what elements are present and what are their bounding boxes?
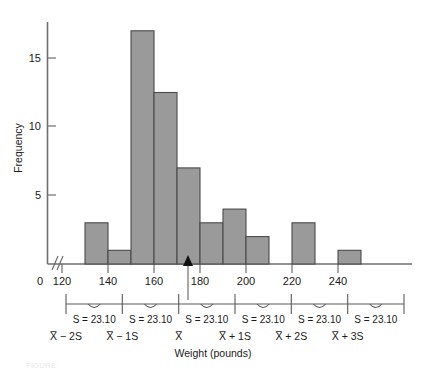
table-row xyxy=(246,237,269,264)
histogram-figure: 15 10 5 Frequency 0 120 140 160 180 xyxy=(0,0,426,369)
sd-bracket-scale: S = 23.10 S = 23.10 S = 23.10 S = 23.10 … xyxy=(50,294,404,342)
sd-segment-label: S = 23.10 xyxy=(354,314,398,325)
x-tick-label-140: 140 xyxy=(99,275,117,287)
sd-segment-label: S = 23.10 xyxy=(129,314,173,325)
sd-boundary-label: X̅ − 1S xyxy=(106,330,138,342)
table-row xyxy=(338,250,361,264)
y-tick-label-15: 15 xyxy=(29,52,41,64)
sd-boundary-label: X̅ + 2S xyxy=(275,330,307,342)
sd-boundary-label: X̅ + 1S xyxy=(219,330,251,342)
y-axis-title: Frequency xyxy=(12,122,24,172)
table-row xyxy=(223,209,246,264)
x-tick-label-160: 160 xyxy=(145,275,163,287)
figure-caption: FIGURE xyxy=(26,361,56,369)
sd-boundary-label: X̅ − 2S xyxy=(50,330,82,342)
x-tick-label-240: 240 xyxy=(329,275,347,287)
table-row xyxy=(177,168,200,264)
x-tick-label-120: 120 xyxy=(53,275,71,287)
table-row xyxy=(108,250,131,264)
histogram-svg: 15 10 5 Frequency 0 120 140 160 180 xyxy=(0,0,426,369)
sd-boundary-label: X̅ xyxy=(175,330,183,342)
table-row xyxy=(292,223,315,264)
sd-segment-label: S = 23.10 xyxy=(298,314,342,325)
y-axis: 15 10 5 Frequency xyxy=(12,22,56,264)
sd-segment-label: S = 23.10 xyxy=(185,314,229,325)
table-row xyxy=(200,223,223,264)
table-row xyxy=(154,93,177,265)
sd-boundary-label: X̅ + 3S xyxy=(331,330,363,342)
table-row xyxy=(131,31,154,264)
x-tick-label-180: 180 xyxy=(191,275,209,287)
table-row xyxy=(85,223,108,264)
x-tick-label-220: 220 xyxy=(283,275,301,287)
x-axis-title: Weight (pounds) xyxy=(175,347,252,359)
y-tick-label-5: 5 xyxy=(35,189,41,201)
sd-segment-label: S = 23.10 xyxy=(73,314,117,325)
axis-break-icon xyxy=(52,256,63,270)
sd-segment-label: S = 23.10 xyxy=(242,314,286,325)
bar-series xyxy=(85,31,361,264)
y-tick-label-10: 10 xyxy=(29,120,41,132)
x-tick-label-0: 0 xyxy=(37,275,43,287)
x-tick-label-200: 200 xyxy=(237,275,255,287)
